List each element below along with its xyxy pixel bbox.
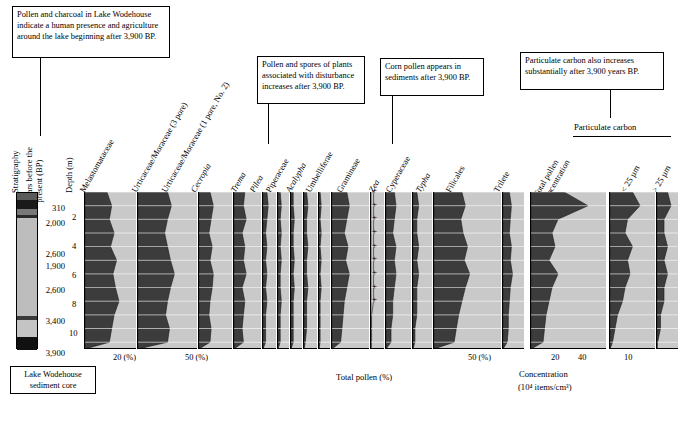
scale-label-conc-40: 40	[578, 353, 586, 362]
col-header-gramineae: Gramineae	[334, 156, 362, 194]
panel-particulate-carbon-25-m	[656, 192, 678, 349]
callout-1-text: Pollen and charcoal in Lake Wodehouse in…	[17, 10, 158, 41]
depth-tick-6: 6	[72, 270, 76, 280]
strat-segment-5	[17, 218, 37, 316]
col-header-umbelliferae: Umbelliferae	[303, 150, 334, 194]
zea-presence-marker: +	[372, 296, 377, 302]
x-axis-label-total-pollen: Total pollen (%)	[336, 372, 392, 382]
panel-urticaceae-moraceae-1-pore-no-2	[198, 192, 232, 349]
panel-trilete	[502, 192, 524, 349]
callout-3-text: Corn pollen appears in sediments after 3…	[385, 62, 470, 82]
col-header-trema: Trema	[228, 170, 247, 194]
year-tick-2600a: 2,600	[36, 249, 65, 259]
panel-piperaceae	[290, 192, 302, 349]
group-label-particulate-carbon: Particulate carbon	[574, 122, 636, 132]
callout-4-text: Particulate carbon also increases substa…	[525, 56, 639, 76]
zea-presence-marker: +	[372, 228, 377, 234]
col-header-carbon-gt25: > 25 µm	[649, 164, 672, 194]
core-legend: Lake Wodehouse sediment core	[10, 366, 96, 394]
panel-particulate-carbon-25-m	[609, 192, 655, 349]
callout-4: Particulate carbon also increases substa…	[520, 52, 664, 90]
zea-presence-marker: +	[372, 201, 377, 207]
zea-presence-marker: +	[372, 283, 377, 289]
core-legend-text: Lake Wodehouse sediment core	[24, 370, 82, 390]
zea-presence-marker: +	[372, 214, 377, 220]
panel-total-pollen-concentration	[530, 192, 606, 349]
conc-axis-label-line1: Concentration	[519, 369, 568, 379]
year-tick-1900: 1,900	[36, 261, 65, 271]
zea-presence-marker: +	[372, 255, 377, 261]
panel-filicales	[433, 192, 501, 349]
callout-2: Pollen and spores of plants associated w…	[257, 56, 365, 104]
panel-urticaceae-moraceae-3-pore	[137, 192, 197, 349]
scale-label-conc-20: 20	[551, 353, 559, 362]
col-header-melastomataceae: Melastomataceae	[77, 137, 115, 194]
particulate-carbon-bracket	[573, 136, 671, 137]
depth-tick-2: 2	[72, 212, 76, 222]
year-tick-310: 310	[41, 203, 65, 213]
panel-cecropia	[233, 192, 261, 349]
col-header-filicales: Filicales	[443, 164, 466, 194]
scale-label-filicales: 50 (%)	[468, 353, 491, 362]
col-header-cyperaceae: Cyperaceae	[383, 154, 412, 194]
axis-label-stratigraphy: Stratigraphy	[10, 151, 20, 193]
year-tick-3900: 3,900	[36, 348, 65, 358]
strat-segment-7	[17, 320, 37, 337]
panel-gramineae	[331, 192, 369, 349]
scale-label-carbon-10: 10	[624, 353, 632, 362]
panel-pilea	[277, 192, 289, 349]
depth-tick-8: 8	[72, 299, 76, 309]
col-header-urticaceae-3pore: Urticaceae/Moraceae (3 pore)	[129, 100, 189, 194]
zea-presence-marker: +	[372, 187, 377, 193]
callout-3-leader	[392, 96, 393, 144]
col-header-pilea: Pilea	[247, 173, 265, 194]
col-header-cecropia: Cecropia	[188, 162, 212, 194]
scale-label-melastomataceae: 20 (%)	[113, 353, 136, 362]
depth-tick-10: 10	[69, 328, 78, 338]
col-header-trilete: Trilete	[491, 169, 511, 194]
axis-label-depth: Depth (m)	[64, 157, 74, 193]
stratigraphy-column	[16, 192, 38, 349]
strat-segment-8	[17, 337, 37, 350]
conc-axis-label-line2: (10⁴ items/cm³)	[518, 382, 572, 392]
zea-presence-marker: +	[372, 269, 377, 275]
panel-umbelliferae	[318, 192, 330, 349]
strat-segment-2	[17, 200, 37, 209]
zea-presence-marker: +	[372, 242, 377, 248]
col-header-typha: Typha	[413, 171, 432, 194]
panel-typha	[412, 192, 432, 349]
panel-acalypha	[303, 192, 317, 349]
callout-4-leader	[610, 90, 611, 118]
panel-cyperaceae	[385, 192, 411, 349]
depth-tick-4: 4	[72, 241, 76, 251]
year-tick-2000: 2,000	[36, 218, 65, 228]
panel-trema	[262, 192, 276, 349]
panel-melastomataceae	[84, 192, 136, 349]
callout-2-text: Pollen and spores of plants associated w…	[262, 60, 354, 91]
year-tick-3400: 3,400	[36, 316, 65, 326]
callout-2-leader	[268, 104, 269, 144]
callout-1-leader	[40, 58, 41, 136]
col-header-carbon-lt25: < 25 µm	[618, 164, 641, 194]
strat-segment-1	[17, 193, 37, 200]
callout-3: Corn pollen appears in sediments after 3…	[380, 58, 484, 96]
year-tick-2600b: 2,600	[36, 285, 65, 295]
callout-1: Pollen and charcoal in Lake Wodehouse in…	[12, 6, 170, 58]
scale-label-urticaceae3: 50 (%)	[185, 353, 208, 362]
